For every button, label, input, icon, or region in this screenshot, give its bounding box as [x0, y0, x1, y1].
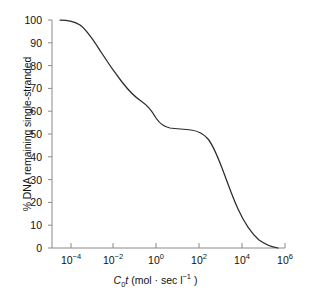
x-tick-marks — [71, 243, 285, 248]
x-tick-label-1e6: 106 — [263, 251, 307, 266]
x-tick-mantissa: 10 — [103, 254, 115, 266]
y-tick-label-90: 90 — [8, 38, 42, 48]
x-axis-label-c: C — [114, 274, 122, 286]
x-tick-exponent: 4 — [246, 252, 250, 261]
y-tick-label-20: 20 — [8, 197, 42, 207]
x-tick-label-1e-2: 10−2 — [91, 251, 135, 266]
y-tick-label-80: 80 — [8, 61, 42, 71]
x-axis-label: C0t (mol · sec l−1 ) — [0, 272, 311, 289]
x-tick-exponent: 2 — [203, 252, 207, 261]
x-tick-mantissa: 10 — [191, 254, 203, 266]
y-tick-marks — [48, 20, 52, 248]
x-tick-mantissa: 10 — [148, 254, 160, 266]
x-tick-label-1e4: 104 — [220, 251, 264, 266]
cot-curve-path — [60, 20, 278, 248]
y-tick-label-10: 10 — [8, 220, 42, 230]
x-tick-mantissa: 10 — [61, 254, 73, 266]
x-axis-label-units-exponent: −1 — [182, 272, 191, 281]
y-tick-label-70: 70 — [8, 83, 42, 93]
y-tick-label-0: 0 — [8, 243, 42, 253]
x-axis-label-units-open: (mol · sec l — [128, 274, 182, 286]
x-tick-label-1e2: 102 — [177, 251, 221, 266]
x-tick-exponent: −4 — [73, 252, 82, 261]
x-tick-label-1e-4: 10−4 — [49, 251, 93, 266]
x-tick-label-1e0: 100 — [134, 251, 178, 266]
y-tick-label-60: 60 — [8, 106, 42, 116]
cot-curve-figure: % DNA remaining single-stranded — [0, 0, 311, 298]
y-tick-label-30: 30 — [8, 175, 42, 185]
x-tick-mantissa: 10 — [277, 254, 289, 266]
x-tick-mantissa: 10 — [234, 254, 246, 266]
x-axis-label-units-close: ) — [191, 274, 197, 286]
y-tick-label-50: 50 — [8, 129, 42, 139]
x-tick-exponent: 6 — [289, 252, 293, 261]
y-tick-label-40: 40 — [8, 152, 42, 162]
x-tick-exponent: −2 — [115, 252, 124, 261]
y-tick-label-100: 100 — [8, 15, 42, 25]
x-tick-exponent: 0 — [160, 252, 164, 261]
